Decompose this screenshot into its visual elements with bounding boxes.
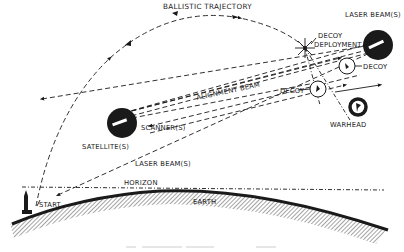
decoy-deployment-label-2: DEPLOYMENT — [314, 41, 362, 49]
decoy-right — [339, 58, 355, 74]
ballistic-trajectory-path — [36, 15, 305, 206]
earth-label: EARTH — [193, 198, 216, 206]
horizon-label: HORIZON — [124, 179, 158, 187]
laser-satellite — [363, 30, 393, 60]
satellite-label: SATELLITE(S) — [82, 143, 129, 151]
decoy-deployment-label-1: DECOY — [318, 32, 343, 40]
warhead-label: WARHEAD — [330, 121, 366, 129]
ballistic-trajectory-label: BALLISTIC TRAJECTORY — [163, 2, 252, 11]
decoy-center-label: DECOY — [280, 87, 305, 95]
scanner-label: SCANNER(S) — [141, 124, 186, 132]
decoy-right-label: DECOY — [363, 63, 388, 71]
laser-beam-top-label: LASER BEAM(S) — [345, 11, 401, 19]
decoy-deployment-burst-icon — [295, 38, 315, 58]
laser-defense-diagram: DECOY DEPLOYMENT LASER BEAM(S) DECOY DEC… — [0, 0, 404, 252]
start-label: START — [39, 201, 62, 209]
rocket-icon — [22, 190, 32, 214]
decoy-center — [310, 81, 326, 97]
horizon-line — [22, 187, 384, 190]
figure-caption — [126, 246, 276, 248]
warhead — [350, 99, 366, 115]
scanner-satellite — [107, 108, 137, 138]
laser-beam-bottom-label: LASER BEAM(S) — [135, 160, 191, 168]
